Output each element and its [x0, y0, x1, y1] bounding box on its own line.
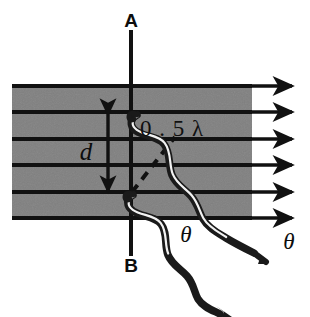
- wave-upper-exit: [254, 253, 266, 262]
- spacing-label-d: d: [80, 138, 93, 165]
- angle-theta-right: θ: [283, 229, 294, 254]
- angle-theta-left: θ: [180, 222, 191, 247]
- diagram-canvas: A B d 0 . 5 λ θ θ: [0, 0, 310, 317]
- axis-label-A: A: [124, 10, 138, 31]
- axis-label-B: B: [124, 255, 138, 276]
- path-difference-label: 0 . 5 λ: [140, 116, 204, 141]
- bragg-diffraction-figure: A B d 0 . 5 λ θ θ: [0, 0, 310, 317]
